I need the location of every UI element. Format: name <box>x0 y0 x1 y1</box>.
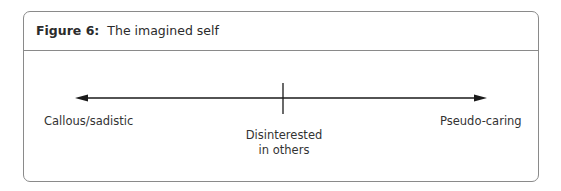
middle-label-line2: in others <box>243 143 325 158</box>
spectrum-axis <box>0 0 561 191</box>
left-arrow-icon <box>75 95 88 102</box>
right-arrow-icon <box>474 95 487 102</box>
middle-point-label: Disinterested in others <box>243 128 325 158</box>
right-endpoint-label: Pseudo-caring <box>440 114 522 129</box>
left-endpoint-label: Callous/sadistic <box>44 114 133 129</box>
middle-label-line1: Disinterested <box>243 128 325 143</box>
